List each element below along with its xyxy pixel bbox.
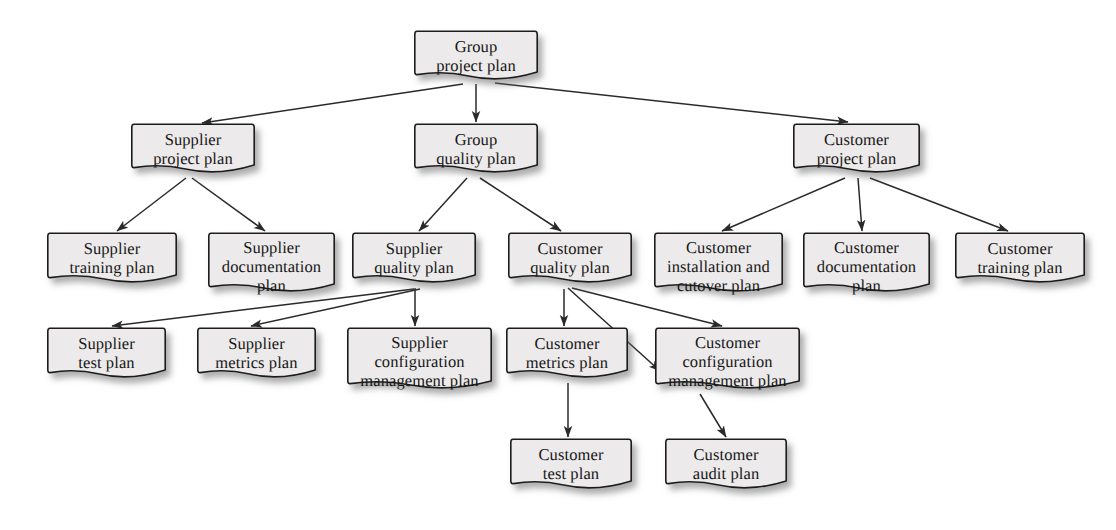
node-customer-project-plan[interactable]: Customer project plan (793, 123, 920, 175)
node-supplier-configuration-management-plan[interactable]: Supplier configuration management plan (347, 327, 492, 391)
node-label-supplier-training-plan: Supplier training plan (47, 232, 177, 285)
node-label-supplier-test-plan: Supplier test plan (47, 327, 166, 380)
node-label-customer-project-plan: Customer project plan (793, 123, 920, 175)
node-supplier-quality-plan[interactable]: Supplier quality plan (352, 232, 476, 285)
node-label-customer-documentation-plan: Customer documentation plan (803, 232, 930, 294)
node-label-supplier-documentation-plan: Supplier documentation plan (208, 232, 335, 294)
node-label-customer-metrics-plan: Customer metrics plan (506, 327, 628, 380)
node-supplier-test-plan[interactable]: Supplier test plan (47, 327, 166, 380)
node-supplier-training-plan[interactable]: Supplier training plan (47, 232, 177, 285)
node-group-quality-plan[interactable]: Group quality plan (414, 123, 538, 175)
node-layer: Group project planSupplier project planG… (0, 0, 1116, 530)
node-supplier-metrics-plan[interactable]: Supplier metrics plan (197, 327, 316, 380)
node-customer-configuration-management-plan[interactable]: Customer configuration management plan (655, 327, 800, 391)
node-customer-installation-cutover-plan[interactable]: Customer installation and cutover plan (654, 232, 783, 294)
node-group-project-plan[interactable]: Group project plan (414, 30, 538, 82)
node-customer-audit-plan[interactable]: Customer audit plan (665, 438, 787, 491)
node-label-customer-installation-cutover-plan: Customer installation and cutover plan (654, 232, 783, 294)
node-label-customer-configuration-management-plan: Customer configuration management plan (655, 327, 800, 391)
diagram-canvas: Group project planSupplier project planG… (0, 0, 1116, 530)
node-customer-metrics-plan[interactable]: Customer metrics plan (506, 327, 628, 380)
node-label-customer-quality-plan: Customer quality plan (508, 232, 632, 285)
node-customer-quality-plan[interactable]: Customer quality plan (508, 232, 632, 285)
node-label-group-project-plan: Group project plan (414, 30, 538, 82)
node-label-customer-test-plan: Customer test plan (510, 438, 632, 491)
node-label-customer-audit-plan: Customer audit plan (665, 438, 787, 491)
node-label-supplier-configuration-management-plan: Supplier configuration management plan (347, 327, 492, 391)
node-supplier-project-plan[interactable]: Supplier project plan (131, 123, 255, 175)
node-label-supplier-project-plan: Supplier project plan (131, 123, 255, 175)
node-customer-documentation-plan[interactable]: Customer documentation plan (803, 232, 930, 294)
node-customer-training-plan[interactable]: Customer training plan (955, 232, 1085, 285)
node-label-customer-training-plan: Customer training plan (955, 232, 1085, 285)
node-label-supplier-quality-plan: Supplier quality plan (352, 232, 476, 285)
node-label-supplier-metrics-plan: Supplier metrics plan (197, 327, 316, 380)
node-label-group-quality-plan: Group quality plan (414, 123, 538, 175)
node-supplier-documentation-plan[interactable]: Supplier documentation plan (208, 232, 335, 294)
node-customer-test-plan[interactable]: Customer test plan (510, 438, 632, 491)
